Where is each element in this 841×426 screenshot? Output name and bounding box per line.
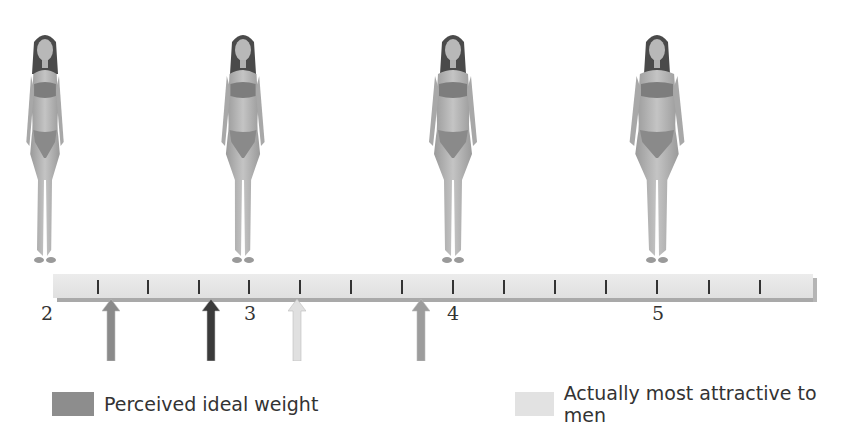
- scale-tick: [452, 280, 454, 294]
- legend-swatch-perceived: [52, 392, 94, 416]
- body-figure-2: [208, 30, 278, 270]
- scale-label-4: 4: [447, 302, 459, 324]
- legend-label-actual: Actually most attractive to men: [564, 382, 841, 426]
- arrow-up-icon: [202, 299, 220, 361]
- arrow-up-icon: [102, 299, 120, 361]
- body-figure-4: [622, 30, 692, 270]
- scale-label-5: 5: [652, 302, 664, 324]
- legend-label-perceived: Perceived ideal weight: [104, 393, 318, 415]
- scale-tick: [759, 280, 761, 294]
- scale-tick: [656, 280, 658, 294]
- scale-tick: [147, 280, 149, 294]
- scale-tick: [605, 280, 607, 294]
- body-figure-3: [418, 30, 488, 270]
- scale-tick: [299, 280, 301, 294]
- scale-bar-shadow: [57, 298, 817, 302]
- scale-tick: [350, 280, 352, 294]
- weight-scale-bar: [53, 274, 813, 298]
- body-figure-1: [10, 30, 80, 270]
- legend-swatch-actual: [515, 392, 554, 416]
- arrow-up-icon: [412, 299, 430, 361]
- scale-tick: [401, 280, 403, 294]
- scale-label-3: 3: [244, 302, 256, 324]
- scale-tick: [503, 280, 505, 294]
- scale-tick: [708, 280, 710, 294]
- scale-tick: [554, 280, 556, 294]
- legend-perceived-ideal: Perceived ideal weight: [52, 391, 318, 416]
- scale-label-2: 2: [41, 302, 53, 324]
- scale-bar-end: [813, 278, 817, 302]
- scale-tick: [248, 280, 250, 294]
- arrow-up-icon: [288, 299, 306, 361]
- scale-tick: [198, 280, 200, 294]
- legend-actual-attractive: Actually most attractive to men: [515, 391, 841, 416]
- scale-tick: [97, 280, 99, 294]
